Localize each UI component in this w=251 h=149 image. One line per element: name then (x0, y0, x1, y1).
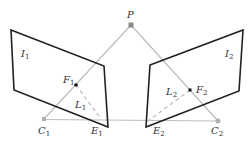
point-c2 (216, 119, 221, 124)
label-c2: C2 (211, 125, 223, 138)
point-f2 (189, 89, 192, 92)
ray-p-c1 (44, 25, 131, 119)
point-f1 (74, 83, 78, 87)
diagram-canvas: P I1 I2 F1 F2 L1 L2 C1 E1 E2 C2 (0, 0, 251, 149)
point-c1 (42, 117, 46, 121)
label-c1: C1 (38, 125, 50, 138)
image-plane-i1 (11, 30, 108, 127)
label-l1: L1 (74, 99, 86, 112)
point-p (129, 23, 134, 28)
label-f2: F2 (195, 84, 207, 97)
label-e2: E2 (152, 125, 165, 138)
epipolar-diagram: P I1 I2 F1 F2 L1 L2 C1 E1 E2 C2 (0, 0, 251, 149)
label-e1: E1 (90, 125, 103, 138)
label-f1: F1 (62, 74, 74, 87)
label-i2: I2 (224, 48, 233, 61)
ray-p-c2 (131, 25, 218, 121)
label-p: P (126, 9, 134, 20)
label-i1: I1 (20, 48, 29, 61)
label-l2: L2 (165, 86, 177, 99)
baseline-c1-c2 (44, 120, 218, 122)
